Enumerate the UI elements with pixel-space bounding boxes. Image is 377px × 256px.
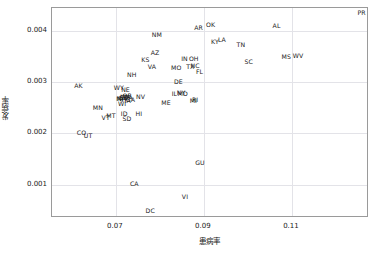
data-point-label: NV xyxy=(136,94,145,100)
y-axis-title: 发病率 xyxy=(0,96,14,120)
gridline-horizontal xyxy=(52,31,367,32)
data-point-label: AK xyxy=(74,83,83,89)
y-tick-label: 0.002 xyxy=(27,128,47,136)
y-axis-ticks: 0.0010.0020.0030.004 xyxy=(14,7,47,217)
data-point-label: DE xyxy=(174,79,183,85)
gridline-horizontal xyxy=(52,185,367,186)
data-point-label: OH xyxy=(189,56,199,62)
data-point-label: WI xyxy=(118,101,126,107)
data-point-label: NM xyxy=(152,32,162,38)
data-point-label: TN xyxy=(237,42,246,48)
data-point-label: FL xyxy=(196,69,203,75)
y-tick-label: 0.001 xyxy=(27,180,47,188)
data-point-label: UT xyxy=(84,132,93,138)
plot-area: PROKALARNMLAKYTNAZWVMSOHINKSSCNCTXVAMOFL… xyxy=(52,8,367,216)
data-point-label: IL xyxy=(172,91,177,97)
data-point-label: HI xyxy=(135,110,142,116)
data-point-label: IN xyxy=(181,56,188,62)
data-point-label: KY xyxy=(211,39,219,45)
data-point-label: MD xyxy=(178,90,188,96)
data-point-label: MS xyxy=(281,54,290,60)
scatter-plot-figure: PROKALARNMLAKYTNAZWVMSOHINKSSCNCTXVAMOFL… xyxy=(0,0,377,256)
x-tick-label: 0.11 xyxy=(283,222,299,230)
data-point-label: ME xyxy=(161,100,170,106)
data-point-label: OK xyxy=(206,22,215,28)
y-tick-label: 0.003 xyxy=(27,77,47,85)
data-point-label: NH xyxy=(127,71,136,77)
data-point-label: VA xyxy=(148,64,156,70)
data-point-label: MN xyxy=(93,105,103,111)
data-point-label: MO xyxy=(171,65,181,71)
data-point-label: SD xyxy=(122,116,131,122)
data-point-label: MI xyxy=(190,98,197,104)
plot-frame: PROKALARNMLAKYTNAZWVMSOHINKSSCNCTXVAMOFL… xyxy=(51,7,368,217)
data-point-label: AR xyxy=(194,25,203,31)
data-point-label: WV xyxy=(293,53,304,59)
data-point-label: AL xyxy=(273,23,281,29)
data-point-label: PR xyxy=(357,10,365,16)
x-tick-label: 0.09 xyxy=(195,222,211,230)
data-point-label: DC xyxy=(146,208,155,214)
data-point-label: VT xyxy=(102,115,110,121)
data-point-label: LA xyxy=(218,37,226,43)
gridline-horizontal xyxy=(52,133,367,134)
data-point-label: CA xyxy=(130,181,139,187)
gridline-horizontal xyxy=(52,82,367,83)
x-axis-ticks: 0.070.090.11 xyxy=(51,222,368,234)
x-axis-title: 患病率 xyxy=(51,235,368,246)
y-tick-label: 0.004 xyxy=(27,26,47,34)
data-point-label: VI xyxy=(182,194,188,200)
data-point-label: TX xyxy=(186,64,194,70)
data-point-label: AZ xyxy=(151,49,160,55)
x-tick-label: 0.07 xyxy=(107,222,123,230)
data-point-label: GU xyxy=(195,160,205,166)
data-point-label: SC xyxy=(245,59,253,65)
